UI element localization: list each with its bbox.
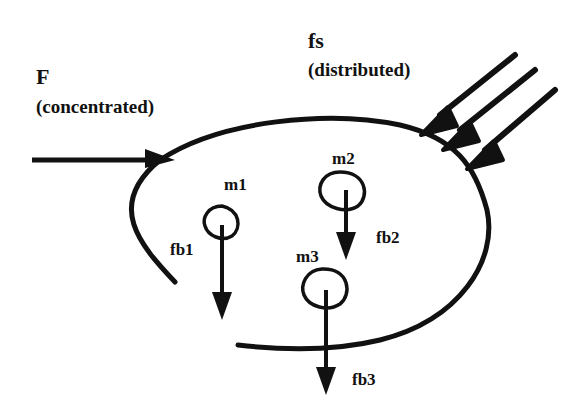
body-outline-upper xyxy=(131,118,489,349)
label-fb3: fb3 xyxy=(352,370,376,389)
label-F-desc: (concentrated) xyxy=(36,96,154,118)
force-fb1-arrowhead-icon xyxy=(212,292,232,320)
label-fs: fs xyxy=(308,28,324,53)
distributed-force-arrows xyxy=(421,55,555,169)
free-body-diagram: F (concentrated) fs (distributed) m1 m2 … xyxy=(0,0,587,411)
label-fb2: fb2 xyxy=(376,228,400,247)
label-fs-desc: (distributed) xyxy=(308,59,410,81)
force-fb3-arrowhead-icon xyxy=(316,367,336,395)
label-m1: m1 xyxy=(224,175,247,194)
label-F: F xyxy=(36,64,49,89)
mass-m2-icon xyxy=(320,172,365,210)
label-fb1: fb1 xyxy=(170,240,194,259)
label-m2: m2 xyxy=(332,149,355,168)
label-m3: m3 xyxy=(296,247,319,266)
force-fb2-arrowhead-icon xyxy=(336,232,356,260)
